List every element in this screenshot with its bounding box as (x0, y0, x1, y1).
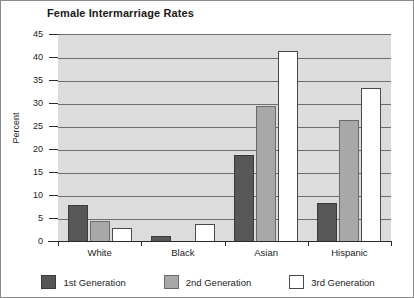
legend-swatch-1st-generation (41, 275, 56, 289)
gridline (58, 81, 391, 82)
bar-hispanic-1st-generation (317, 203, 337, 242)
bar-asian-1st-generation (234, 155, 254, 242)
y-tick-label: 30 (13, 99, 43, 108)
y-tick-mark (49, 57, 58, 58)
x-category-label-black: Black (138, 247, 228, 258)
x-category-label-white: White (55, 247, 145, 258)
legend-swatch-3rd-generation (289, 275, 304, 289)
y-tick-label: 25 (13, 122, 43, 131)
bar-white-3rd-generation (112, 228, 132, 242)
legend-item-3rd-generation[interactable]: 3rd Generation (289, 275, 374, 289)
y-tick-mark (49, 126, 58, 127)
y-tick-label: 45 (13, 30, 43, 39)
y-tick-label: 40 (13, 53, 43, 62)
gridline (58, 104, 391, 105)
y-tick-label: 0 (13, 237, 43, 246)
legend-item-1st-generation[interactable]: 1st Generation (41, 275, 125, 289)
bar-white-2nd-generation (90, 221, 110, 242)
y-tick-label: 35 (13, 76, 43, 85)
plot-area (58, 34, 391, 242)
y-tick-mark (49, 149, 58, 150)
chart-title: Female Intermarriage Rates (47, 7, 194, 19)
y-tick-label: 5 (13, 214, 43, 223)
y-tick-mark (49, 80, 58, 81)
chart-figure: Female Intermarriage Rates Percent 05101… (0, 0, 414, 298)
legend-label-1st-generation: 1st Generation (63, 277, 125, 288)
bar-hispanic-2nd-generation (339, 120, 359, 242)
bar-asian-2nd-generation (256, 106, 276, 242)
bar-black-3rd-generation (195, 224, 215, 242)
x-axis-line (48, 241, 392, 242)
y-tick-label: 15 (13, 168, 43, 177)
x-tick-mark (225, 241, 226, 246)
y-tick-mark (49, 34, 58, 35)
y-tick-label: 20 (13, 145, 43, 154)
bar-asian-3rd-generation (278, 51, 298, 242)
legend-swatch-2nd-generation (164, 275, 179, 289)
chart-legend: 1st Generation 2nd Generation 3rd Genera… (1, 267, 414, 297)
x-tick-mark (308, 241, 309, 246)
legend-label-3rd-generation: 3rd Generation (311, 277, 374, 288)
y-tick-mark (49, 103, 58, 104)
y-tick-mark (49, 195, 58, 196)
x-category-label-asian: Asian (221, 247, 311, 258)
x-tick-mark (141, 241, 142, 246)
y-tick-mark (49, 172, 58, 173)
bar-hispanic-3rd-generation (361, 88, 381, 242)
x-tick-mark (391, 241, 392, 246)
bar-white-1st-generation (68, 205, 88, 242)
legend-item-2nd-generation[interactable]: 2nd Generation (164, 275, 252, 289)
y-tick-label: 10 (13, 191, 43, 200)
gridline (58, 58, 391, 59)
legend-label-2nd-generation: 2nd Generation (186, 277, 252, 288)
x-category-label-hispanic: Hispanic (304, 247, 394, 258)
y-tick-mark (49, 218, 58, 219)
x-tick-mark (58, 241, 59, 246)
